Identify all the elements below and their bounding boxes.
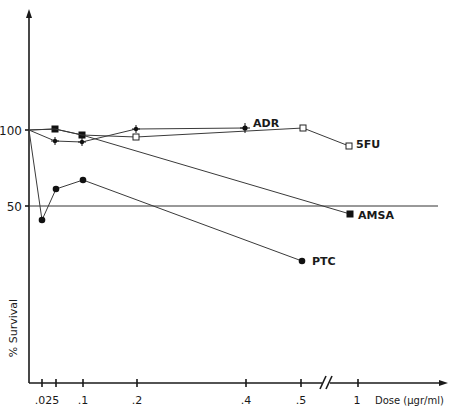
5fu-point (346, 143, 352, 149)
series-ptc: PTC (29, 130, 336, 268)
5fu-point (133, 134, 139, 140)
series-label-ptc: PTC (312, 255, 336, 268)
x-tick-label-4: .4 (241, 394, 252, 407)
ptc-point (39, 217, 46, 224)
ptc-point (80, 177, 87, 184)
5fu-point (300, 125, 306, 131)
survival-chart: 100 50 % Survival .025 .1 .2 .4 .5 1 Dos… (0, 0, 454, 411)
series-label-5fu: 5FU (356, 138, 380, 151)
x-tick-label-10: 1 (354, 394, 361, 407)
x-axis-arrow-icon (439, 380, 448, 386)
y-axis-label: % Survival (7, 299, 20, 357)
x-axis: .025 .1 .2 .4 .5 1 Dose (µgr/ml) (29, 376, 448, 407)
chart-svg: 100 50 % Survival .025 .1 .2 .4 .5 1 Dos… (0, 0, 454, 411)
y-axis-arrow-icon (26, 9, 32, 18)
x-tick-label-025: .025 (35, 394, 60, 407)
series-amsa: AMSA (29, 126, 394, 223)
x-axis-label: Dose (µgr/ml) (375, 395, 444, 406)
y-axis: 100 50 % Survival (0, 9, 32, 383)
series-label-adr: ADR (253, 117, 280, 130)
y-tick-label-100: 100 (0, 124, 22, 138)
amsa-point (347, 211, 354, 218)
ptc-point (53, 186, 60, 193)
x-tick-label-1: .1 (78, 394, 89, 407)
series-label-amsa: AMSA (358, 209, 394, 222)
x-tick-label-5: .5 (296, 394, 307, 407)
y-tick-label-50: 50 (7, 200, 22, 214)
adr-point (132, 125, 140, 133)
ptc-point (299, 258, 306, 265)
adr-point (51, 137, 59, 145)
x-tick-label-2: .2 (132, 394, 143, 407)
adr-point (78, 138, 86, 146)
